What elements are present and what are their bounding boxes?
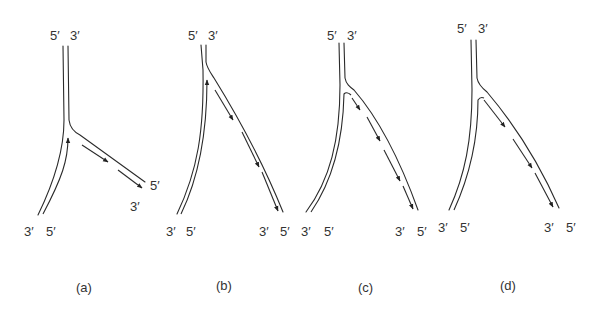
panel-b-right-bottom-3prime: 3′ [259,224,269,239]
panel-d-right-bottom-5prime: 5′ [566,220,576,235]
panel-b: 5′ 3′ 3′ 5′ 3′ 5′ (b) [166,28,290,293]
panel-b-top-label-5prime: 5′ [188,28,198,43]
panel-c-caption: (c) [358,280,373,295]
panel-c-parent-strand-right [344,43,418,210]
panel-d-leading-strand [454,97,484,210]
panel-a-lagging-fragment-1 [82,145,108,162]
panel-c-parent-strand-left [306,43,340,212]
panel-b-lagging-fragment-3 [262,172,278,211]
panel-d-parent-strand-left [449,40,472,210]
panel-c-left-bottom-3prime: 3′ [301,224,311,239]
panel-d-right-bottom-3prime: 3′ [544,220,554,235]
panel-c: 5′ 3′ 3′ 5′ 3′ 5′ (c) [301,28,427,295]
panel-d-lagging-fragment-2 [513,139,532,168]
panel-b-right-bottom-5prime: 5′ [280,224,290,239]
panel-a-right-end-5prime: 5′ [150,178,160,193]
panel-a-leading-strand [43,138,68,214]
panel-d-caption: (d) [500,278,516,293]
panel-a-right-end-3prime: 3′ [130,199,140,214]
panel-a-bottom-3prime: 3′ [24,224,34,239]
panel-d-top-label-3prime: 3′ [478,21,488,36]
panel-a-caption: (a) [76,280,92,295]
panel-a-top-label-3prime: 3′ [70,28,80,43]
panel-c-left-bottom-5prime: 5′ [324,224,334,239]
replication-fork-figure: 5′ 3′ 5′ 3′ 3′ 5′ (a) 5′ 3′ 3′ 5′ 3′ 5′ … [0,0,594,313]
panel-b-parent-strand-left [177,45,203,214]
panel-a: 5′ 3′ 5′ 3′ 3′ 5′ (a) [24,28,160,295]
panel-b-parent-strand-right [206,45,283,212]
panel-c-top-label-3prime: 3′ [347,28,357,43]
panel-c-lagging-fragment-4 [403,186,413,209]
panel-b-left-bottom-3prime: 3′ [166,224,176,239]
panel-c-lagging-fragment-2 [367,117,380,141]
panel-d-left-bottom-3prime: 3′ [438,220,448,235]
panel-c-lagging-fragment-3 [384,150,400,181]
panel-a-parent-strand-left [38,46,64,215]
panel-a-top-label-5prime: 5′ [50,28,60,43]
panel-b-top-label-3prime: 3′ [208,28,218,43]
panel-d-top-label-5prime: 5′ [457,21,467,36]
panel-b-left-bottom-5prime: 5′ [186,224,196,239]
panel-b-caption: (b) [216,278,232,293]
panel-c-right-bottom-3prime: 3′ [395,224,405,239]
panel-d-parent-strand-right [476,40,559,208]
panel-a-lagging-fragment-2 [118,170,142,188]
panel-b-lagging-fragment-2 [242,132,259,167]
panel-d-left-bottom-5prime: 5′ [460,220,470,235]
panel-c-lagging-fragment-1 [352,98,360,110]
panel-d: 5′ 3′ 3′ 5′ 3′ 5′ (d) [438,21,576,293]
panel-d-lagging-fragment-1 [484,100,505,127]
panel-a-bottom-5prime: 5′ [46,224,56,239]
panel-c-top-label-5prime: 5′ [327,28,337,43]
panel-c-right-bottom-5prime: 5′ [417,224,427,239]
